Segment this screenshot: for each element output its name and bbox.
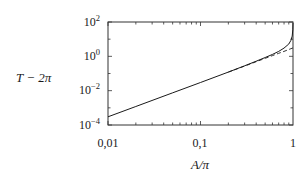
x-tick-labels: 0,01 0,1 1 <box>98 136 297 150</box>
x-tick-label-0.01: 0,01 <box>98 136 119 150</box>
y-tick-label-1: 100 <box>84 47 100 63</box>
x-minor-ticks <box>108 22 289 125</box>
chart: 102 100 10−2 10−4 0,01 0,1 1 T − 2π A/π <box>0 0 308 182</box>
x-tick-label-0.1: 0,1 <box>193 136 208 150</box>
y-tick-label-0.01: 10−2 <box>79 81 100 97</box>
y-axis-label: T − 2π <box>16 70 52 85</box>
y-tick-label-100: 102 <box>84 13 100 29</box>
y-tick-labels: 102 100 10−2 10−4 <box>79 13 101 132</box>
solid-curve <box>108 23 293 117</box>
x-axis-label: A/π <box>190 157 210 172</box>
plot-area <box>108 22 293 125</box>
plot-frame <box>108 22 293 125</box>
dashed-curve <box>228 48 293 72</box>
y-minor-ticks <box>108 22 293 125</box>
y-tick-label-0.0001: 10−4 <box>79 116 101 132</box>
x-tick-label-1: 1 <box>290 136 296 150</box>
